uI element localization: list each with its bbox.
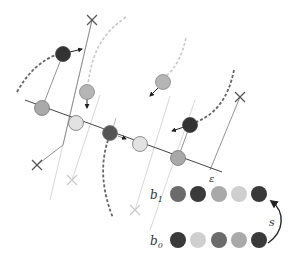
x-marker-icon — [32, 160, 42, 170]
particle — [156, 75, 171, 90]
particle — [69, 116, 84, 131]
bead — [190, 232, 206, 248]
bead — [251, 186, 267, 202]
x-marker-icon — [130, 205, 140, 215]
bead — [231, 232, 247, 248]
bead-row-b1: b1 — [150, 186, 267, 204]
x-marker-icon — [235, 92, 245, 102]
particle — [56, 47, 71, 62]
particle — [133, 137, 148, 152]
x-marker-icon — [87, 15, 97, 25]
particle — [35, 101, 50, 116]
arrow-icon — [150, 88, 158, 96]
bead — [190, 186, 206, 202]
bead — [231, 186, 247, 202]
row-label-b1: b1 — [150, 188, 163, 204]
particle — [80, 85, 95, 100]
bead — [251, 232, 267, 248]
bead — [211, 186, 227, 202]
bead — [211, 232, 227, 248]
line-particles — [35, 101, 186, 166]
epsilon-label: ε — [209, 173, 214, 184]
arrow-icon — [70, 49, 82, 52]
bead — [170, 232, 186, 248]
light-dashed-curves — [88, 17, 186, 84]
particle — [103, 126, 118, 141]
x-markers — [32, 15, 245, 215]
epsilon-line — [25, 100, 222, 172]
x-marker-icon — [67, 175, 77, 185]
bead-row-b0: b0 — [150, 232, 267, 250]
shift-label: s — [269, 216, 275, 229]
particle — [183, 118, 198, 133]
projection-diagram: ε — [0, 0, 296, 259]
row-label-b0: b0 — [150, 234, 163, 250]
bead — [170, 186, 186, 202]
particle — [171, 151, 186, 166]
arrow-icon — [172, 127, 184, 131]
